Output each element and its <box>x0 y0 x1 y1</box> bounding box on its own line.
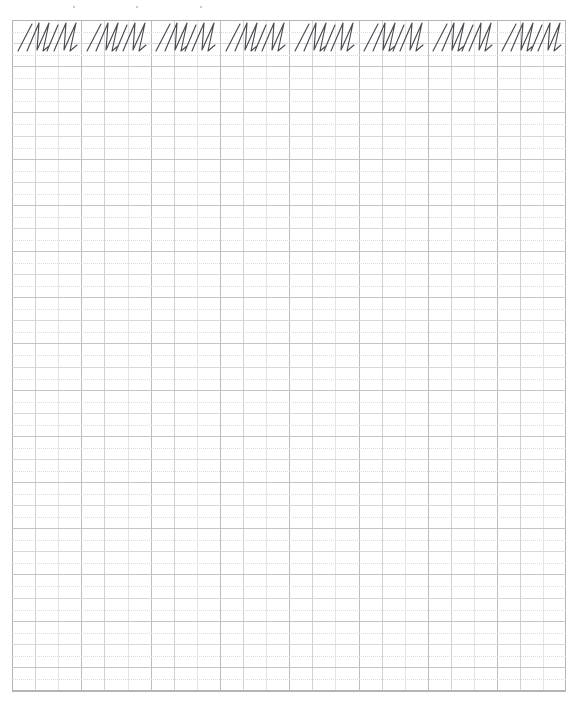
grid-hline-24 <box>12 574 566 575</box>
ruled-grid <box>12 20 566 692</box>
grid-hline-dotted-4 <box>12 124 566 125</box>
grid-vline-20 <box>474 20 475 692</box>
cursive-n-pair-glyph <box>293 20 359 54</box>
grid-hline-2 <box>12 66 566 67</box>
grid-hline-8 <box>12 205 566 206</box>
model-letter-group-7 <box>431 20 497 54</box>
model-letter-group-6 <box>362 20 428 54</box>
grid-hline-21 <box>12 505 566 506</box>
grid-hline-17 <box>12 413 566 414</box>
grid-hline-dotted-22 <box>12 540 566 541</box>
grid-vline-16 <box>382 20 383 692</box>
grid-vline-8 <box>197 20 198 692</box>
grid-vline-0 <box>12 20 13 692</box>
grid-vline-1 <box>35 20 36 692</box>
grid-hline-dotted-28 <box>12 679 566 680</box>
grid-hline-13 <box>12 320 566 321</box>
grid-hline-bottom-edge <box>12 691 566 692</box>
grid-hline-1 <box>12 43 566 44</box>
cursive-n-pair-glyph <box>85 20 151 54</box>
grid-hline-19 <box>12 459 566 460</box>
grid-vline-5 <box>128 20 129 692</box>
grid-vline-10 <box>243 20 244 692</box>
grid-hline-20 <box>12 482 566 483</box>
grid-hline-dotted-3 <box>12 101 566 102</box>
grid-hline-18 <box>12 436 566 437</box>
grid-hline-11 <box>12 274 566 275</box>
grid-vline-22 <box>520 20 521 692</box>
grid-vline-9 <box>220 20 221 692</box>
grid-hline-16 <box>12 390 566 391</box>
model-letter-group-5 <box>293 20 359 54</box>
grid-vline-7 <box>174 20 175 692</box>
grid-hline-dotted-26 <box>12 633 566 634</box>
grid-hline-dotted-27 <box>12 656 566 657</box>
grid-vline-14 <box>335 20 336 692</box>
registration-tick-1 <box>73 6 75 8</box>
grid-vline-18 <box>428 20 429 692</box>
grid-vline-11 <box>266 20 267 692</box>
cursive-n-pair-glyph <box>431 20 497 54</box>
grid-hline-5 <box>12 136 566 137</box>
grid-hline-dotted-17 <box>12 425 566 426</box>
grid-vline-right-edge <box>565 20 566 692</box>
grid-hline-7 <box>12 182 566 183</box>
grid-hline-dotted-15 <box>12 379 566 380</box>
cursive-n-pair-glyph <box>362 20 428 54</box>
grid-hline-dotted-12 <box>12 309 566 310</box>
registration-tick-row <box>0 0 583 20</box>
cursive-n-pair-glyph <box>500 20 566 54</box>
grid-hline-14 <box>12 343 566 344</box>
grid-vline-2 <box>58 20 59 692</box>
grid-hline-dotted-8 <box>12 217 566 218</box>
grid-hline-dotted-24 <box>12 586 566 587</box>
model-letter-group-4 <box>224 20 290 54</box>
grid-hline-9 <box>12 228 566 229</box>
grid-hline-dotted-18 <box>12 448 566 449</box>
grid-vline-15 <box>359 20 360 692</box>
grid-vline-13 <box>312 20 313 692</box>
grid-hline-dotted-21 <box>12 517 566 518</box>
grid-hline-dotted-7 <box>12 194 566 195</box>
grid-hline-dotted-11 <box>12 286 566 287</box>
grid-hline-0 <box>12 20 566 21</box>
grid-hline-dotted-9 <box>12 240 566 241</box>
grid-vline-19 <box>451 20 452 692</box>
grid-vline-21 <box>497 20 498 692</box>
grid-hline-dotted-16 <box>12 402 566 403</box>
grid-hline-23 <box>12 551 566 552</box>
grid-vline-23 <box>543 20 544 692</box>
grid-hline-10 <box>12 251 566 252</box>
grid-hline-12 <box>12 297 566 298</box>
grid-hline-dotted-6 <box>12 171 566 172</box>
model-letter-group-8 <box>500 20 566 54</box>
grid-hline-6 <box>12 159 566 160</box>
grid-hline-22 <box>12 528 566 529</box>
grid-hline-3 <box>12 89 566 90</box>
cursive-n-pair-glyph <box>224 20 290 54</box>
grid-hline-dotted-2 <box>12 78 566 79</box>
registration-tick-2 <box>136 6 138 8</box>
grid-hline-dotted-25 <box>12 610 566 611</box>
grid-hline-27 <box>12 644 566 645</box>
grid-hline-15 <box>12 367 566 368</box>
grid-vline-12 <box>289 20 290 692</box>
grid-hline-dotted-5 <box>12 148 566 149</box>
grid-hline-dotted-20 <box>12 494 566 495</box>
grid-hline-dotted-23 <box>12 563 566 564</box>
grid-vline-4 <box>104 20 105 692</box>
cursive-n-pair-glyph <box>16 20 82 54</box>
grid-vline-3 <box>81 20 82 692</box>
grid-hline-dotted-13 <box>12 332 566 333</box>
grid-vline-6 <box>151 20 152 692</box>
cursive-n-pair-glyph <box>154 20 220 54</box>
grid-hline-dotted-10 <box>12 263 566 264</box>
grid-hline-26 <box>12 621 566 622</box>
grid-hline-28 <box>12 667 566 668</box>
model-letter-group-3 <box>154 20 220 54</box>
grid-hline-dotted-0 <box>12 32 566 33</box>
grid-hline-dotted-1 <box>12 55 566 56</box>
model-letter-group-2 <box>85 20 151 54</box>
grid-hline-dotted-14 <box>12 355 566 356</box>
model-letter-group-1 <box>16 20 82 54</box>
